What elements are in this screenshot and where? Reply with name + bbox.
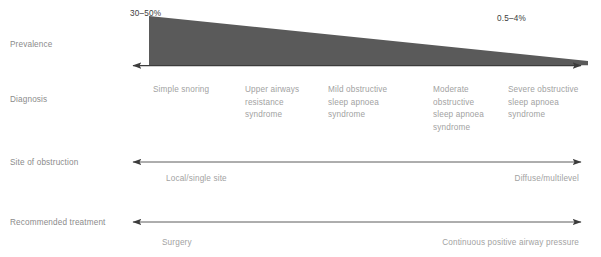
recommended-treatment-caption-left: Surgery — [162, 237, 192, 248]
diagnosis-stage-mild-osa: Mild obstructive sleep apnoea syndrome — [328, 84, 420, 122]
recommended-treatment-caption-right: Continuous positive airway pressure — [442, 237, 579, 248]
prevalence-value-right: 0.5–4% — [497, 13, 526, 24]
site-of-obstruction-caption-right: Diffuse/multilevel — [515, 173, 579, 184]
diagnosis-stage-severe-osa: Severe obstructive sleep apnoea syndrome — [508, 84, 596, 122]
prevalence-value-left: 30–50% — [130, 8, 161, 19]
diagram-graphics-layer — [0, 0, 601, 257]
diagnosis-stage-moderate-osa: Moderate obstructive sleep apnoea syndro… — [433, 84, 503, 134]
diagnosis-stage-upper-airways-resistance-syndrome: Upper airways resistance syndrome — [245, 84, 323, 122]
severity-spectrum-diagram: Prevalence Diagnosis Site of obstruction… — [0, 0, 601, 257]
site-of-obstruction-caption-left: Local/single site — [166, 173, 227, 184]
diagnosis-stage-simple-snoring: Simple snoring — [153, 84, 239, 97]
